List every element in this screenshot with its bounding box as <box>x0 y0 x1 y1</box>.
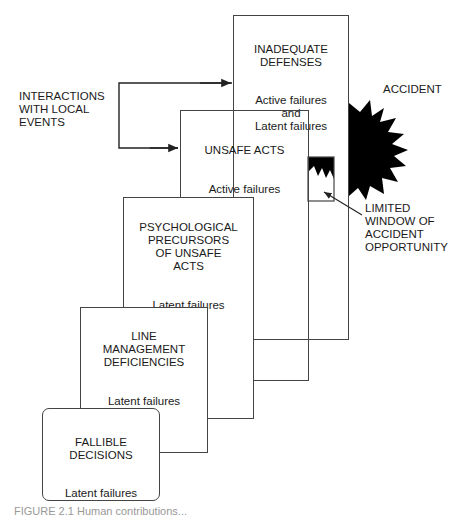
window-pointer-icon <box>324 192 362 215</box>
interactions-bracket-icon <box>119 83 232 148</box>
figure-caption: FIGURE 2.1 Human contributions... <box>14 505 187 515</box>
interactions-label: INTERACTIONS WITH LOCAL EVENTS <box>19 90 105 129</box>
accident-label: ACCIDENT <box>383 83 442 96</box>
window-label: LIMITED WINDOW OF ACCIDENT OPPORTUNITY <box>365 202 448 254</box>
arrows-layer <box>0 0 458 515</box>
